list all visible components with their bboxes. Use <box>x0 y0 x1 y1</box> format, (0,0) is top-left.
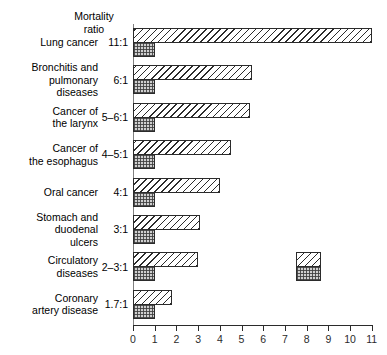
mortality-ratio-value-2: 5–6:1 <box>100 111 128 124</box>
mortality-ratio-value-3: 4–5:1 <box>100 148 128 161</box>
bar-hatched-row-4 <box>133 178 220 193</box>
category-label-line: Cancer of <box>0 142 98 155</box>
bar-stippled-row-4 <box>133 192 155 207</box>
category-label-0: Lung cancer <box>0 36 98 49</box>
x-tick-label-0: 0 <box>121 333 145 345</box>
x-tick-8 <box>307 326 308 331</box>
category-label-4: Oral cancer <box>0 186 98 199</box>
x-tick-label-7: 7 <box>273 333 297 345</box>
category-label-line: the larynx <box>0 117 98 130</box>
mortality-ratio-value-7: 1.7:1 <box>100 298 128 311</box>
x-tick-11 <box>372 326 373 331</box>
x-tick-1 <box>155 326 156 331</box>
x-tick-label-3: 3 <box>186 333 210 345</box>
x-tick-2 <box>176 326 177 331</box>
category-label-line: Bronchitis and <box>0 61 98 74</box>
category-label-line: duodenal <box>0 223 98 236</box>
bar-stippled-row-2 <box>133 117 155 132</box>
mortality-ratio-value-0: 11:1 <box>100 36 128 49</box>
category-label-2: Cancer ofthe larynx <box>0 105 98 130</box>
x-tick-6 <box>263 326 264 331</box>
legend-smokers-swatch <box>296 252 321 267</box>
x-tick-7 <box>285 326 286 331</box>
x-tick-label-11: 11 <box>360 333 384 345</box>
bar-stippled-row-3 <box>133 154 155 169</box>
category-label-7: Coronaryartery disease <box>0 292 98 317</box>
bar-stippled-row-7 <box>133 304 155 319</box>
x-tick-label-9: 9 <box>316 333 340 345</box>
category-label-3: Cancer ofthe esophagus <box>0 142 98 167</box>
bar-hatched-row-6 <box>133 252 198 267</box>
mortality-ratio-header: Mortality ratio <box>60 10 128 35</box>
legend-nonsmokers-swatch <box>296 266 321 281</box>
category-label-line: diseases <box>0 267 98 280</box>
bar-stippled-row-6 <box>133 266 155 281</box>
bar-stippled-row-5 <box>133 229 155 244</box>
x-tick-label-4: 4 <box>208 333 232 345</box>
x-tick-5 <box>242 326 243 331</box>
category-label-line: Coronary <box>0 292 98 305</box>
bar-hatched-row-1 <box>133 65 252 80</box>
plot-area: 01234567891011 <box>133 24 373 325</box>
bar-hatched-row-7 <box>133 290 172 305</box>
bar-hatched-row-5 <box>133 215 200 230</box>
mortality-ratio-chart: Mortality ratio Lung cancer11:1Bronchiti… <box>0 0 387 355</box>
x-tick-0 <box>133 326 134 331</box>
category-label-line: Lung cancer <box>0 36 98 49</box>
category-label-6: Circulatorydiseases <box>0 254 98 279</box>
category-label-line: Circulatory <box>0 254 98 267</box>
mortality-ratio-value-4: 4:1 <box>100 186 128 199</box>
category-label-line: the esophagus <box>0 155 98 168</box>
x-tick-label-1: 1 <box>143 333 167 345</box>
mortality-ratio-value-6: 2–3:1 <box>100 261 128 274</box>
x-tick-label-8: 8 <box>295 333 319 345</box>
mortality-ratio-value-1: 6:1 <box>100 74 128 87</box>
category-label-line: pulmonary <box>0 74 98 87</box>
header-line-1: Mortality <box>60 10 128 23</box>
bar-stippled-row-0 <box>133 42 155 57</box>
x-tick-label-2: 2 <box>164 333 188 345</box>
category-label-line: diseases <box>0 86 98 99</box>
header-line-2: ratio <box>60 23 128 36</box>
category-label-line: Stomach and <box>0 211 98 224</box>
x-tick-label-6: 6 <box>251 333 275 345</box>
category-label-line: ulcers <box>0 236 98 249</box>
x-tick-10 <box>350 326 351 331</box>
x-tick-label-10: 10 <box>338 333 362 345</box>
x-axis-line <box>133 325 373 326</box>
x-tick-4 <box>220 326 221 331</box>
bar-stippled-row-1 <box>133 79 155 94</box>
x-tick-3 <box>198 326 199 331</box>
category-label-5: Stomach andduodenalulcers <box>0 211 98 249</box>
category-label-line: Cancer of <box>0 105 98 118</box>
bar-hatched-row-3 <box>133 140 231 155</box>
bar-hatched-row-2 <box>133 103 250 118</box>
category-label-line: Oral cancer <box>0 186 98 199</box>
x-tick-label-5: 5 <box>230 333 254 345</box>
category-label-1: Bronchitis andpulmonarydiseases <box>0 61 98 99</box>
mortality-ratio-value-5: 3:1 <box>100 223 128 236</box>
category-label-line: artery disease <box>0 304 98 317</box>
bar-hatched-row-0 <box>133 28 372 43</box>
x-tick-9 <box>328 326 329 331</box>
